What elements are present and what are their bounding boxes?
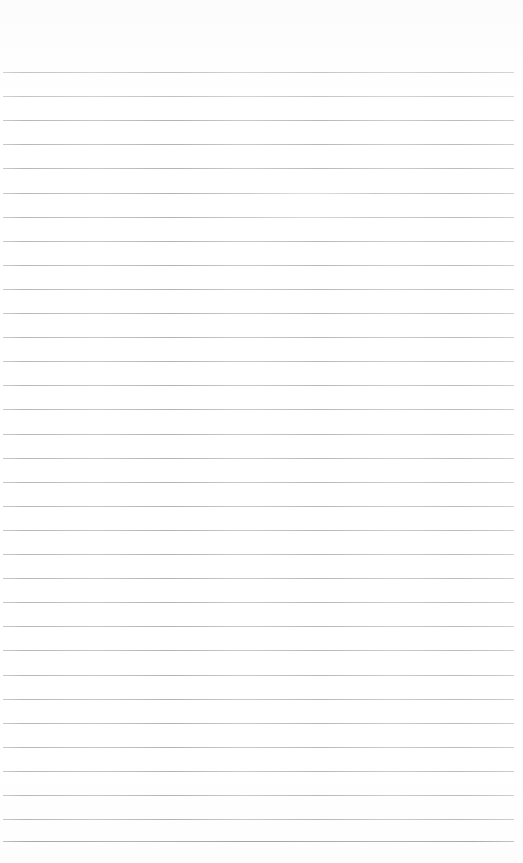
ruled-line bbox=[3, 795, 514, 796]
ruled-line bbox=[3, 361, 514, 362]
ruled-line bbox=[3, 313, 514, 314]
ruled-line bbox=[3, 217, 514, 218]
ruled-line bbox=[3, 699, 514, 700]
ruled-line bbox=[3, 168, 514, 169]
ruled-line bbox=[3, 265, 514, 266]
ruled-line bbox=[3, 72, 514, 73]
ruled-line bbox=[3, 385, 514, 386]
ruled-line bbox=[3, 482, 514, 483]
ruled-line bbox=[3, 96, 514, 97]
ruled-line bbox=[3, 120, 514, 121]
ruled-line bbox=[3, 409, 514, 410]
ruled-line bbox=[3, 675, 514, 676]
ruled-line bbox=[3, 193, 514, 194]
ruled-line bbox=[3, 747, 514, 748]
ruled-line bbox=[3, 144, 514, 145]
ruled-line bbox=[3, 578, 514, 579]
ruled-line bbox=[3, 602, 514, 603]
ruled-line bbox=[3, 841, 514, 842]
ruled-line bbox=[3, 626, 514, 627]
ruled-line bbox=[3, 434, 514, 435]
ruled-lines-layer bbox=[0, 0, 523, 863]
ruled-line bbox=[3, 650, 514, 651]
ruled-line bbox=[3, 289, 514, 290]
ruled-line bbox=[3, 506, 514, 507]
ruled-line bbox=[3, 458, 514, 459]
ruled-line bbox=[3, 241, 514, 242]
scanned-lined-page bbox=[0, 0, 523, 863]
ruled-line bbox=[3, 554, 514, 555]
ruled-line bbox=[3, 723, 514, 724]
ruled-line bbox=[3, 771, 514, 772]
ruled-line bbox=[3, 530, 514, 531]
ruled-line bbox=[3, 337, 514, 338]
ruled-line bbox=[3, 819, 514, 820]
